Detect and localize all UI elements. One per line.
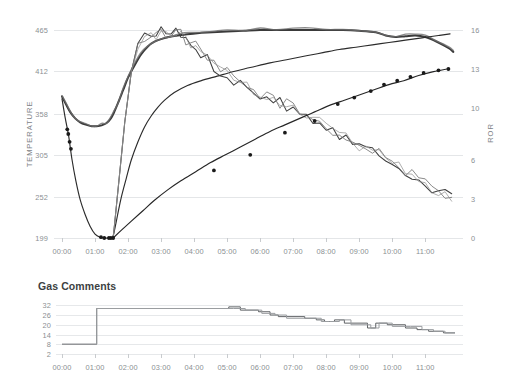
gas-comments-title: Gas Comments: [38, 280, 116, 292]
gas-y-tick-label: 8: [47, 340, 51, 349]
temperature-ror-chart: 199252305358412465 036101316 00:0001:000…: [0, 0, 511, 272]
series-environmental-temperature: [62, 30, 453, 126]
x-tick-label: 05:00: [218, 247, 237, 256]
y-tick-label: 412: [35, 67, 48, 76]
y-tick-label: 358: [35, 110, 48, 119]
gas-y-axis-labels: 2814202632: [42, 301, 51, 359]
gas-x-tick-label: 03:00: [151, 363, 170, 372]
gas-y-tick-label: 32: [42, 301, 51, 310]
y2-tick-label: 6: [471, 156, 475, 165]
series-bean-temperature: [62, 34, 450, 238]
data-point-marker: [336, 102, 340, 106]
gas-x-tick-label: 10:00: [383, 363, 402, 372]
main-gridlines: [54, 31, 463, 239]
data-point-marker: [212, 169, 216, 173]
y-tick-label: 465: [35, 26, 48, 35]
data-point-marker: [352, 96, 356, 100]
gas-y-tick-label: 20: [42, 321, 51, 330]
main-data-point-markers: [65, 67, 450, 240]
x-tick-label: 07:00: [284, 247, 303, 256]
data-point-marker: [99, 235, 103, 239]
data-point-marker: [437, 68, 441, 72]
y-tick-label: 252: [35, 193, 48, 202]
data-point-marker: [422, 71, 426, 75]
y2-tick-label: 0: [471, 234, 475, 243]
x-tick-label: 01:00: [85, 247, 104, 256]
y2-tick-label: 16: [471, 26, 480, 35]
series-delta-bt: [113, 69, 447, 238]
data-point-marker: [409, 75, 413, 79]
y-axis-title-temperature: TEMPERATURE: [25, 101, 34, 168]
y-tick-label: 199: [35, 234, 48, 243]
x-tick-label: 02:00: [118, 247, 137, 256]
main-left-axis-labels: 199252305358412465: [35, 26, 48, 243]
gas-x-tick-label: 04:00: [184, 363, 203, 372]
gas-step-line-background: [62, 309, 455, 345]
x-tick-label: 11:00: [416, 247, 435, 256]
gas-x-tick-label: 09:00: [350, 363, 369, 372]
data-point-marker: [382, 83, 386, 87]
gas-x-tick-label: 08:00: [317, 363, 336, 372]
x-tick-label: 04:00: [184, 247, 203, 256]
data-point-marker: [248, 153, 252, 157]
roast-profile-page: 199252305358412465 036101316 00:0001:000…: [0, 0, 511, 384]
gas-comments-panel: Gas Comments 2814202632 00:0001:0002:000…: [0, 276, 511, 384]
data-point-marker: [66, 132, 70, 136]
y2-tick-label: 3: [471, 195, 475, 204]
data-point-marker: [283, 131, 287, 135]
y-tick-label: 305: [35, 151, 48, 160]
gas-x-tick-label: 00:00: [52, 363, 71, 372]
data-point-marker: [395, 79, 399, 83]
gas-x-tick-label: 06:00: [251, 363, 270, 372]
data-point-marker: [102, 236, 106, 240]
data-point-marker: [65, 127, 69, 131]
series-rate-of-rise: [113, 27, 452, 238]
gas-gridlines: [56, 306, 463, 355]
series-environmental-temperature-ghost: [62, 28, 453, 127]
data-point-marker: [446, 67, 450, 71]
data-point-marker: [68, 140, 72, 144]
gas-x-tick-label: 02:00: [118, 363, 137, 372]
gas-comments-plot: Gas Comments 2814202632 00:0001:0002:000…: [0, 276, 511, 384]
gas-y-tick-label: 14: [42, 331, 51, 340]
gas-y-tick-label: 2: [47, 350, 51, 359]
main-right-axis-labels: 036101316: [471, 26, 480, 243]
x-tick-label: 06:00: [251, 247, 270, 256]
data-point-marker: [69, 147, 73, 151]
temperature-ror-plot: 199252305358412465 036101316 00:0001:000…: [0, 0, 511, 272]
x-tick-label: 10:00: [383, 247, 402, 256]
gas-y-tick-label: 26: [42, 311, 51, 320]
x-tick-label: 08:00: [317, 247, 336, 256]
gas-x-tick-label: 07:00: [284, 363, 303, 372]
gas-x-axis-labels: 00:0001:0002:0003:0004:0005:0006:0007:00…: [52, 363, 434, 372]
gas-x-tick-label: 11:00: [416, 363, 435, 372]
y-axis-title-ror: ROR: [486, 123, 495, 143]
data-point-marker: [109, 236, 113, 240]
data-point-marker: [369, 89, 373, 93]
main-x-axis-labels: 00:0001:0002:0003:0004:0005:0006:0007:00…: [52, 247, 434, 256]
series-rate-of-rise-ghost-b: [113, 31, 452, 238]
gas-x-tick-label: 01:00: [85, 363, 104, 372]
x-tick-label: 03:00: [151, 247, 170, 256]
y2-tick-label: 10: [471, 104, 480, 113]
main-series-group: [62, 27, 453, 238]
gas-x-tick-label: 05:00: [218, 363, 237, 372]
x-tick-label: 00:00: [52, 247, 71, 256]
x-tick-label: 09:00: [350, 247, 369, 256]
y2-tick-label: 13: [471, 65, 480, 74]
data-point-marker: [313, 119, 317, 123]
